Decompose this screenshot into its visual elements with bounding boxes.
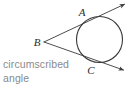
label-point-c: C [87,64,95,76]
caption-line-1: circumscribed [3,58,69,71]
label-point-a: A [78,6,86,18]
caption-line-2: angle [3,72,29,85]
label-point-b: B [34,36,41,48]
circumscribed-angle-figure: A B C circumscribed angle [0,0,130,94]
